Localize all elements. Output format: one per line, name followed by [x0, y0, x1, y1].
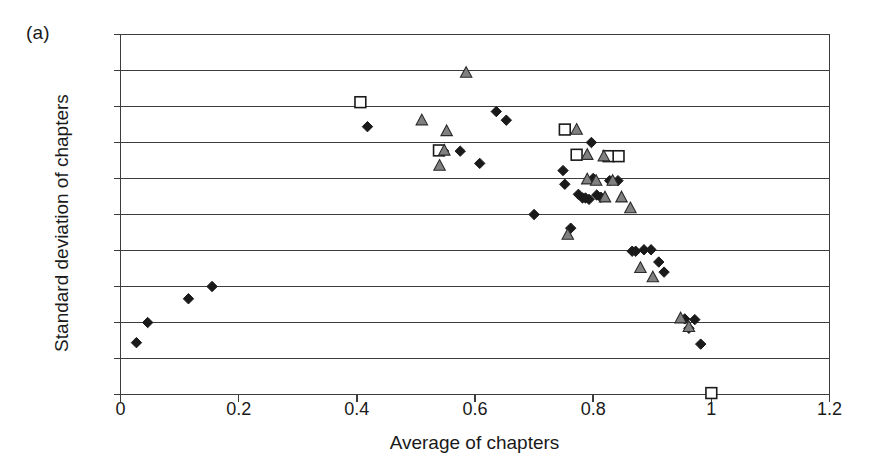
data-point-diamond	[690, 314, 700, 324]
x-tick-label: 0.6	[462, 400, 487, 418]
data-point-triangle	[571, 124, 582, 135]
data-point-diamond	[207, 281, 217, 291]
data-markers	[131, 67, 716, 399]
data-point-square	[613, 151, 624, 162]
data-point-diamond	[646, 245, 656, 255]
data-point-triangle	[434, 160, 445, 171]
data-point-diamond	[183, 294, 193, 304]
y-axis-tick-labels: 00.050.10.150.20.250.30.350.40.450.5	[0, 0, 112, 472]
data-point-diamond	[131, 337, 141, 347]
data-point-triangle	[616, 191, 627, 202]
data-point-diamond	[586, 137, 596, 147]
data-point-diamond	[560, 179, 570, 189]
data-point-diamond	[501, 115, 511, 125]
data-point-diamond	[659, 267, 669, 277]
data-point-square	[355, 97, 366, 108]
data-point-diamond	[142, 317, 152, 327]
x-tick-label: 1	[706, 400, 716, 418]
data-point-diamond	[491, 106, 501, 116]
scatter-plot-canvas	[0, 0, 879, 472]
data-point-triangle	[635, 262, 646, 273]
x-tick-label: 0.4	[344, 400, 369, 418]
x-tick-label: 0.2	[226, 400, 251, 418]
data-point-triangle	[416, 114, 427, 125]
data-point-triangle	[460, 67, 471, 78]
data-point-diamond	[362, 121, 372, 131]
data-point-triangle	[625, 202, 636, 213]
data-point-diamond	[455, 146, 465, 156]
data-point-diamond	[654, 257, 664, 267]
x-axis-title: Average of chapters	[120, 432, 829, 454]
data-point-square	[706, 388, 717, 399]
data-point-diamond	[695, 339, 705, 349]
x-tick-label: 0	[115, 400, 125, 418]
data-point-triangle	[582, 149, 593, 160]
data-point-diamond	[529, 209, 539, 219]
figure-panel-a: (a) Standard deviation of chapters Avera…	[0, 0, 879, 472]
data-point-diamond	[475, 158, 485, 168]
gridlines	[121, 35, 830, 395]
x-tick-label: 1.2	[817, 400, 842, 418]
data-point-square	[571, 149, 582, 160]
x-tick-label: 0.8	[581, 400, 606, 418]
data-point-square	[559, 124, 570, 135]
data-point-triangle	[441, 125, 452, 136]
data-point-diamond	[558, 165, 568, 175]
data-point-triangle	[647, 271, 658, 282]
axis-ticks	[114, 35, 830, 402]
